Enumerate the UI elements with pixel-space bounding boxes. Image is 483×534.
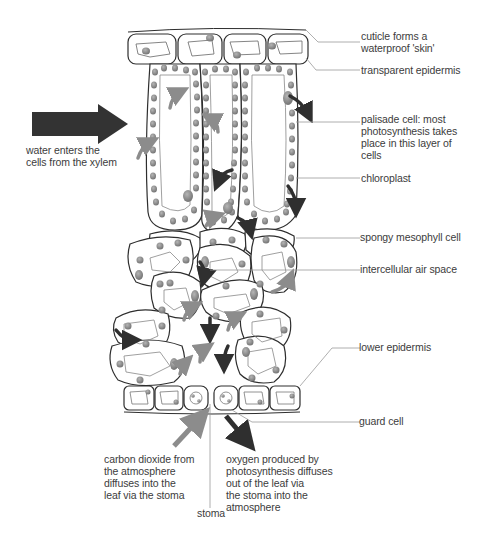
spongy-mesophyll-layer (110, 228, 297, 385)
label-water-enters: water enters the cells from the xylem (26, 144, 117, 168)
label-guard-cell: guard cell (359, 415, 404, 427)
carbon-dioxide-arrow (174, 418, 200, 446)
label-chloroplast: chloroplast (361, 172, 411, 184)
label-lower-epidermis: lower epidermis (359, 341, 431, 353)
oxygen-arrow (226, 416, 246, 440)
label-oxygen: oxygen produced by photosynthesis diffus… (226, 453, 333, 513)
lower-epidermis (124, 386, 300, 414)
label-palisade-cell: palisade cell: most photosynthesis takes… (361, 113, 457, 161)
label-stoma: stoma (197, 507, 225, 519)
label-carbon-dioxide: carbon dioxide from the atmosphere diffu… (104, 453, 194, 501)
label-transparent-epidermis: transparent epidermis (361, 64, 460, 76)
water-arrow (32, 104, 128, 144)
label-spongy-mesophyll: spongy mesophyll cell (360, 231, 461, 243)
upper-epidermis (128, 28, 308, 64)
label-cuticle: cuticle forms a waterproof 'skin' (361, 30, 435, 54)
label-intercellular-air-space: intercellular air space (360, 263, 457, 275)
palisade-layer (146, 64, 298, 232)
guard-cell-right (214, 386, 238, 410)
guard-cell-left (184, 386, 208, 410)
